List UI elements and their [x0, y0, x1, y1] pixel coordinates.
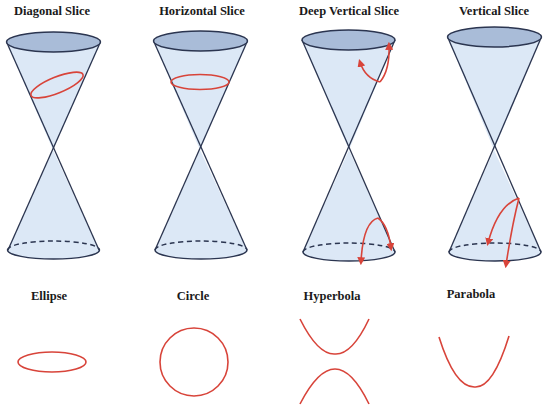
double-cone-deep-vertical — [302, 30, 395, 262]
conic-sections-diagram — [0, 0, 546, 409]
double-cone-vertical — [448, 27, 542, 265]
hyperbola-curve — [300, 319, 369, 404]
parabola-curve — [439, 336, 509, 387]
double-cone-horizontal — [154, 31, 248, 259]
ellipse-curve — [18, 352, 86, 372]
circle-curve — [160, 328, 228, 396]
double-cone-diagonal — [7, 32, 101, 259]
